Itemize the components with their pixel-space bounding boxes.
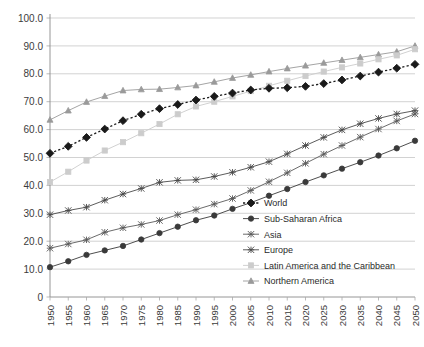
data-point-europe <box>284 151 290 157</box>
data-point-sub-saharan-africa <box>412 138 417 143</box>
data-point-sub-saharan-africa <box>339 166 344 171</box>
y-axis-tick-label: 0 <box>37 292 43 303</box>
legend-item-asia[interactable]: Asia <box>243 230 282 240</box>
y-axis-tick-label: 10.0 <box>24 264 44 275</box>
chart-canvas: 010.020.030.040.050.060.070.080.090.0100… <box>0 0 424 347</box>
data-point-asia <box>394 118 400 124</box>
legend-label-asia: Asia <box>264 230 282 240</box>
data-point-sub-saharan-africa <box>102 248 107 253</box>
x-axis-tick-label: 2035 <box>355 305 366 326</box>
data-point-sub-saharan-africa <box>66 259 71 264</box>
x-axis-group: 1950195519601965197019751980198519901995… <box>45 297 421 326</box>
x-axis-tick-label: 2025 <box>318 305 329 326</box>
y-axis-tick-label: 80.0 <box>24 68 44 79</box>
data-point-latin-america-and-the-caribbean <box>47 179 52 184</box>
y-axis-tick-label: 90.0 <box>24 41 44 52</box>
y-axis-tick-label: 50.0 <box>24 152 44 163</box>
legend-marker-asia <box>248 231 254 237</box>
data-point-europe <box>102 197 108 203</box>
data-point-asia <box>175 211 181 217</box>
data-point-europe <box>266 158 272 164</box>
data-point-asia <box>266 179 272 185</box>
data-point-latin-america-and-the-caribbean <box>157 121 162 126</box>
y-axis-tick-label: 100.0 <box>18 13 43 24</box>
data-point-world <box>64 142 72 150</box>
x-axis-tick-label: 1965 <box>99 305 110 326</box>
data-point-europe <box>211 173 217 179</box>
data-point-latin-america-and-the-caribbean <box>285 78 290 83</box>
data-point-world <box>356 72 364 80</box>
legend-marker-latin-america-and-the-caribbean <box>248 263 253 268</box>
x-axis-tick-label: 1975 <box>136 305 147 326</box>
data-point-europe <box>193 177 199 183</box>
data-point-latin-america-and-the-caribbean <box>175 112 180 117</box>
data-point-sub-saharan-africa <box>230 206 235 211</box>
data-point-sub-saharan-africa <box>285 186 290 191</box>
x-axis-tick-label: 1995 <box>209 305 220 326</box>
data-point-sub-saharan-africa <box>120 243 125 248</box>
data-point-northern-america <box>65 107 71 113</box>
data-point-sub-saharan-africa <box>321 173 326 178</box>
legend-label-northern-america: Northern America <box>264 276 334 286</box>
data-point-europe <box>175 177 181 183</box>
data-point-asia <box>65 241 71 247</box>
data-point-world <box>46 149 54 157</box>
chart-legend: WorldSub-Saharan AfricaAsiaEuropeLatin A… <box>243 198 395 286</box>
x-axis-tick-label: 2045 <box>391 305 402 326</box>
x-axis-tick-label: 1985 <box>172 305 183 326</box>
data-point-sub-saharan-africa <box>175 224 180 229</box>
data-point-asia <box>229 195 235 201</box>
x-axis-tick-label: 2030 <box>337 305 348 326</box>
data-point-europe <box>357 121 363 127</box>
data-point-world <box>320 80 328 88</box>
legend-item-europe[interactable]: Europe <box>243 245 293 255</box>
data-point-asia <box>302 160 308 166</box>
data-point-asia <box>248 187 254 193</box>
data-point-sub-saharan-africa <box>358 160 363 165</box>
y-axis-tick-label: 40.0 <box>24 180 44 191</box>
x-axis-tick-label: 1950 <box>45 305 56 326</box>
data-point-latin-america-and-the-caribbean <box>412 47 417 52</box>
data-point-europe <box>138 185 144 191</box>
data-point-latin-america-and-the-caribbean <box>120 140 125 145</box>
data-point-world <box>302 82 310 90</box>
x-axis-tick-label: 2020 <box>300 305 311 326</box>
data-point-europe <box>375 115 381 121</box>
legend-label-world: World <box>264 198 287 208</box>
x-axis-tick-label: 1970 <box>118 305 129 326</box>
data-point-sub-saharan-africa <box>303 179 308 184</box>
data-point-latin-america-and-the-caribbean <box>358 61 363 66</box>
data-point-world <box>83 134 91 142</box>
data-point-world <box>393 64 401 72</box>
legend-item-northern-america[interactable]: Northern America <box>243 276 334 286</box>
data-point-asia <box>375 126 381 132</box>
data-point-sub-saharan-africa <box>47 264 52 269</box>
data-point-sub-saharan-africa <box>193 218 198 223</box>
data-point-world <box>283 84 291 92</box>
data-point-europe <box>156 179 162 185</box>
legend-item-latin-america-and-the-caribbean[interactable]: Latin America and the Caribbean <box>243 261 395 271</box>
legend-item-sub-saharan-africa[interactable]: Sub-Saharan Africa <box>243 214 342 224</box>
x-axis-tick-label: 2005 <box>245 305 256 326</box>
data-point-asia <box>83 237 89 243</box>
data-point-europe <box>339 127 345 133</box>
data-point-asia <box>321 151 327 157</box>
data-point-europe <box>120 191 126 197</box>
data-point-europe <box>47 211 53 217</box>
data-point-latin-america-and-the-caribbean <box>321 69 326 74</box>
data-point-world <box>411 60 419 68</box>
data-point-latin-america-and-the-caribbean <box>303 73 308 78</box>
data-point-asia <box>284 170 290 176</box>
x-axis-tick-label: 2000 <box>227 305 238 326</box>
series-northern-america <box>47 43 418 123</box>
y-axis-tick-label: 20.0 <box>24 236 44 247</box>
data-point-latin-america-and-the-caribbean <box>102 148 107 153</box>
data-point-latin-america-and-the-caribbean <box>376 57 381 62</box>
data-point-sub-saharan-africa <box>376 153 381 158</box>
x-axis-tick-label: 1990 <box>191 305 202 326</box>
data-point-europe <box>321 134 327 140</box>
legend-label-europe: Europe <box>264 245 293 255</box>
data-point-asia <box>339 142 345 148</box>
x-axis-tick-label: 1980 <box>154 305 165 326</box>
data-point-europe <box>302 142 308 148</box>
